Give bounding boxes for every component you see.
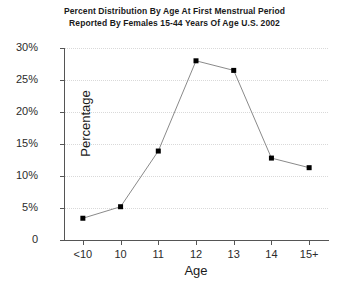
data-point-marker <box>80 216 85 221</box>
x-axis-line <box>64 240 329 241</box>
series-markers <box>80 58 311 220</box>
chart-subtitle: Reported By Females 15-44 Years Of Age U… <box>0 17 349 29</box>
x-axis-title: Age <box>64 263 328 278</box>
y-axis-title: Percentage <box>78 90 93 157</box>
data-point-marker <box>194 58 199 63</box>
x-tick-label: 15+ <box>287 248 331 260</box>
data-point-marker <box>156 149 161 154</box>
chart-figure: Percent Distribution By Age At First Men… <box>0 0 349 283</box>
data-series <box>64 48 328 240</box>
chart-title: Percent Distribution By Age At First Men… <box>0 5 349 17</box>
y-tick-label: 30% <box>0 42 38 53</box>
y-tick-label: 10% <box>0 170 38 181</box>
y-tick-label: 25% <box>0 74 38 85</box>
plot-area: 05%10%15%20%25%30% <10101112131415+ Perc… <box>64 48 328 240</box>
y-tick-label: 15% <box>0 138 38 149</box>
y-tick-label: 20% <box>0 106 38 117</box>
series-line <box>83 61 309 218</box>
data-point-marker <box>269 156 274 161</box>
chart-title-block: Percent Distribution By Age At First Men… <box>0 5 349 29</box>
data-point-marker <box>307 165 312 170</box>
data-point-marker <box>118 204 123 209</box>
data-point-marker <box>231 68 236 73</box>
y-tick-label: 5% <box>0 202 38 213</box>
y-tick-label: 0 <box>0 234 38 245</box>
